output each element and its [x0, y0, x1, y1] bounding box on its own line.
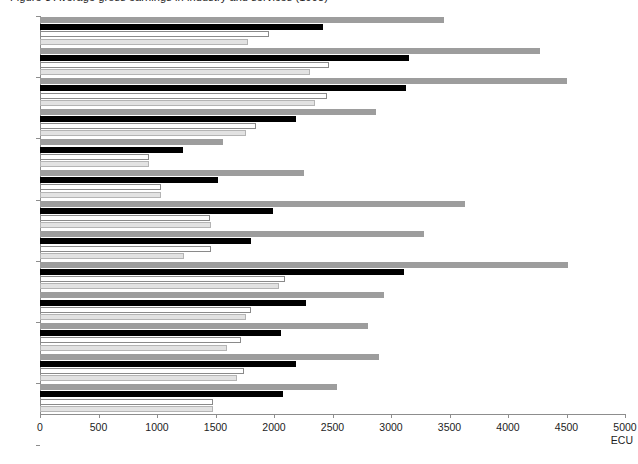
x-axis-tick [274, 414, 275, 418]
bar-group [40, 230, 625, 261]
x-axis-tick [450, 414, 451, 418]
x-axis-tick [157, 414, 158, 418]
bar [40, 208, 273, 214]
bar [40, 116, 296, 122]
bar [40, 109, 376, 115]
bar [40, 78, 567, 84]
bar-group [40, 108, 625, 139]
chart-title: Figure 3 Average gross earnings in indus… [10, 0, 328, 3]
bar [40, 24, 323, 30]
bar [40, 177, 218, 183]
x-axis-tick-label: 3000 [379, 421, 402, 433]
bar-group [40, 138, 625, 169]
bar [40, 262, 568, 268]
x-axis-tick-label: 4000 [496, 421, 519, 433]
bar-group [40, 353, 625, 384]
bar [40, 69, 310, 75]
x-axis-tick [625, 414, 626, 418]
bar [40, 276, 285, 282]
x-axis-tick-label: 1000 [145, 421, 168, 433]
bar [40, 170, 304, 176]
x-axis-tick-label: 3500 [438, 421, 461, 433]
x-axis-tick-label: 0 [37, 421, 43, 433]
bar [40, 375, 237, 381]
bar [40, 231, 424, 237]
bar [40, 130, 246, 136]
bar-group [40, 292, 625, 323]
bar [40, 330, 281, 336]
bar [40, 55, 409, 61]
bar [40, 123, 256, 129]
bar-group [40, 200, 625, 231]
x-axis-unit-label: ECU [611, 434, 633, 446]
bar [40, 337, 241, 343]
bar [40, 253, 184, 259]
bar [40, 238, 251, 244]
bar [40, 215, 210, 221]
bar [40, 307, 251, 313]
bar [40, 100, 315, 106]
x-axis-tick [40, 414, 41, 418]
bar [40, 300, 306, 306]
bar [40, 93, 327, 99]
x-axis-tick-label: 5000 [613, 421, 636, 433]
bar [40, 283, 279, 289]
bar [40, 314, 246, 320]
bar-group [40, 16, 625, 47]
bar-group [40, 261, 625, 292]
x-axis-tick [333, 414, 334, 418]
y-axis-tick [36, 16, 40, 17]
bar [40, 192, 161, 198]
bar [40, 184, 161, 190]
bar [40, 62, 329, 68]
x-axis-tick-label: 2000 [262, 421, 285, 433]
bar [40, 85, 406, 91]
bar [40, 399, 213, 405]
bar [40, 222, 211, 228]
bar [40, 31, 269, 37]
bar-group [40, 169, 625, 200]
bar [40, 161, 149, 167]
y-axis-tick [36, 445, 40, 446]
x-axis-tick-label: 4500 [555, 421, 578, 433]
bar [40, 323, 368, 329]
bar-group [40, 383, 625, 414]
bar [40, 361, 296, 367]
bar [40, 48, 540, 54]
x-axis-tick [567, 414, 568, 418]
bar [40, 391, 283, 397]
bar-group [40, 77, 625, 108]
x-axis-tick [391, 414, 392, 418]
bar-group [40, 322, 625, 353]
x-axis-tick [99, 414, 100, 418]
bar [40, 269, 404, 275]
chart-container: Figure 3 Average gross earnings in indus… [0, 0, 638, 464]
bar [40, 246, 211, 252]
x-axis-tick [216, 414, 217, 418]
x-axis-tick-label: 2500 [321, 421, 344, 433]
bar [40, 368, 244, 374]
x-axis-tick [508, 414, 509, 418]
bar [40, 345, 227, 351]
bar [40, 354, 379, 360]
plot-area: 0500100015002000250030003500400045005000 [40, 16, 625, 414]
bar [40, 292, 384, 298]
bar [40, 147, 183, 153]
bar [40, 139, 223, 145]
bar [40, 384, 337, 390]
bar [40, 201, 465, 207]
x-axis-tick-label: 1500 [204, 421, 227, 433]
x-axis-tick-label: 500 [90, 421, 108, 433]
bar [40, 154, 149, 160]
bar [40, 17, 444, 23]
bar [40, 406, 213, 412]
bar-group [40, 47, 625, 78]
bar [40, 39, 248, 45]
